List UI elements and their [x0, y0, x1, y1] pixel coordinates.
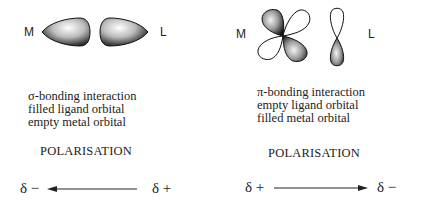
- arrow-left-icon: [47, 184, 142, 194]
- pi-description-line-3: filled metal orbital: [257, 112, 350, 126]
- ligand-label-pi: L: [368, 27, 375, 41]
- metal-sigma-lobe: [42, 18, 90, 46]
- d-lobe-top-right: [283, 10, 310, 36]
- ligand-label-sigma: L: [160, 25, 167, 39]
- arrow-right-icon: [274, 183, 369, 193]
- pi-orbital-diagram: [252, 4, 362, 68]
- d-lobe-top-left: [262, 9, 284, 36]
- metal-label-pi: M: [236, 27, 246, 41]
- pi-delta-minus: δ −: [377, 179, 396, 196]
- ligand-sigma-lobe: [100, 18, 148, 46]
- sigma-polarisation-heading: POLARISATION: [40, 144, 132, 159]
- sigma-description-line-3: empty metal orbital: [28, 116, 126, 130]
- metal-label-sigma: M: [24, 25, 34, 39]
- sigma-orbital-diagram: [38, 12, 168, 52]
- d-lobe-bottom-right: [283, 36, 307, 62]
- d-lobe-bottom-left: [258, 36, 283, 60]
- sigma-delta-minus: δ −: [20, 180, 39, 197]
- p-lobe-top: [330, 8, 343, 38]
- pi-polarisation-heading: POLARISATION: [268, 146, 360, 161]
- sigma-delta-plus: δ +: [152, 180, 171, 197]
- pi-delta-plus: δ +: [245, 179, 264, 196]
- p-lobe-bottom: [330, 38, 343, 66]
